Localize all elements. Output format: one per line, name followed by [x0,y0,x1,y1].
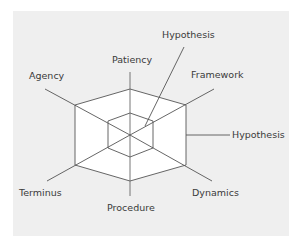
label-framework: Framework [191,70,244,80]
label-patiency: Patiency [112,55,152,65]
label-agency: Agency [29,71,64,81]
label-dynamics: Dynamics [192,188,239,198]
label-hypothesis-top: Hypothesis [162,30,215,40]
label-procedure: Procedure [107,203,155,213]
label-hypothesis-right: Hypothesis [232,130,285,140]
label-terminus: Terminus [19,188,62,198]
